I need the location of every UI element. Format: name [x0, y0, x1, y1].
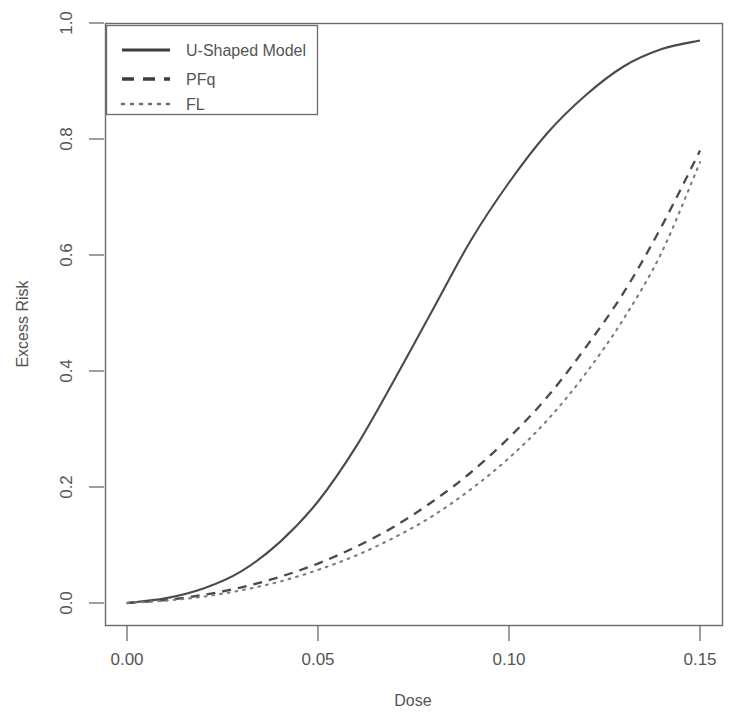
chart-canvas: 0.00 0.05 0.10 0.15 0.0 0.2 0.4 0.6 0.8 …: [0, 0, 741, 720]
x-tick-label: 0.00: [110, 650, 143, 669]
y-tick-label: 0.2: [57, 475, 76, 499]
series-line-u-shaped-model: [127, 40, 700, 603]
legend-label-fl: FL: [186, 96, 205, 113]
y-axis-tick-labels: 0.0 0.2 0.4 0.6 0.8 1.0: [57, 11, 76, 615]
data-curves: [127, 40, 700, 603]
x-axis-title: Dose: [394, 692, 431, 709]
legend-label-pfq: PFq: [186, 71, 215, 88]
y-tick-label: 1.0: [57, 11, 76, 35]
y-axis-title: Excess Risk: [14, 279, 31, 367]
legend-box: [107, 26, 318, 115]
x-axis-tick-labels: 0.00 0.05 0.10 0.15: [110, 650, 716, 669]
y-tick-label: 0.4: [57, 359, 76, 383]
x-tick-label: 0.10: [492, 650, 525, 669]
x-tick-label: 0.15: [683, 650, 716, 669]
y-tick-label: 0.0: [57, 591, 76, 615]
legend-label-u-shaped-model: U-Shaped Model: [186, 42, 306, 59]
series-line-pfq: [127, 151, 700, 603]
series-line-fl: [127, 162, 700, 603]
y-tick-label: 0.8: [57, 127, 76, 151]
y-axis-ticks: [89, 23, 104, 603]
x-tick-label: 0.05: [301, 650, 334, 669]
legend: U-Shaped Model PFq FL: [107, 26, 318, 115]
y-tick-label: 0.6: [57, 243, 76, 267]
x-axis-ticks: [127, 626, 700, 641]
chart-figure: 0.00 0.05 0.10 0.15 0.0 0.2 0.4 0.6 0.8 …: [0, 0, 741, 720]
